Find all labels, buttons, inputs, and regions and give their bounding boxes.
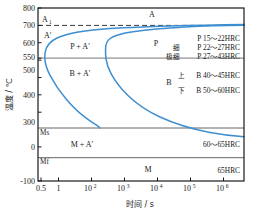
pearlite-hardness-row-3-prefix: 极细 xyxy=(166,52,180,61)
region-label-martensite: M xyxy=(144,165,151,174)
region-label-bainite: B xyxy=(166,78,171,87)
bainite-hardness-row-1-prefix: 上 xyxy=(178,71,185,80)
region-label-martensite-austenite: M + A′ xyxy=(71,140,94,149)
region-label-pearlite-austenite: P + A′ xyxy=(70,42,90,51)
y-tick-400: 400 xyxy=(23,91,35,100)
y-tick-700: 700 xyxy=(23,21,35,30)
mf-line-label: Mf xyxy=(40,158,49,166)
x-tick-1e5: 10 xyxy=(183,184,191,193)
x-tick-1e6: 10 xyxy=(216,184,224,193)
x-tick-1e4-exponent: 4 xyxy=(160,183,163,189)
x-tick-1e3-exponent: 3 xyxy=(127,183,130,189)
region-label-pearlite: P xyxy=(154,39,159,48)
y-axis-title: 温度 / ℃ xyxy=(4,79,14,112)
ms-line-label: Ms xyxy=(40,129,49,137)
pearlite-hardness-row-1: P 15～22HRC xyxy=(197,34,240,43)
a1-line-label: A xyxy=(42,15,48,24)
y-tick-800: 800 xyxy=(23,4,35,13)
x-tick-1e2: 10 xyxy=(84,184,92,193)
y-axis-tick-labels: 800 700 600 550 500 400 300 0 -100 xyxy=(20,4,35,186)
pearlite-hardness-row-2-prefix: 细 xyxy=(173,43,180,52)
y-tick-0: 0 xyxy=(31,143,35,152)
pearlite-hardness-row-3: P 27～43HRC xyxy=(197,52,240,61)
y-tick-300: 300 xyxy=(23,118,35,127)
region-label-bainite-austenite: B + A′ xyxy=(70,69,91,78)
y-tick-550: 550 xyxy=(23,53,35,62)
x-tick-1e3: 10 xyxy=(117,184,125,193)
region-label-austenite-prime: A′ xyxy=(44,31,52,40)
x-tick-0-5: 0.5 xyxy=(36,184,46,193)
x-tick-1: 1 xyxy=(57,184,61,193)
y-tick-600: 600 xyxy=(23,39,35,48)
bainite-hardness-row-2: B 50～60HRC xyxy=(196,86,240,95)
bainite-hardness-row-2-prefix: 下 xyxy=(178,87,185,95)
ttt-diagram-figure: 800 700 600 550 500 400 300 0 -100 温度 / … xyxy=(0,0,253,212)
x-axis-title: 时间 / s xyxy=(126,199,154,209)
x-tick-1e2-exponent: 2 xyxy=(94,183,97,189)
x-tick-1e6-exponent: 6 xyxy=(226,183,229,189)
chart-canvas: 800 700 600 550 500 400 300 0 -100 温度 / … xyxy=(0,0,253,212)
x-axis-tick-labels: 0.5 1 10 2 10 3 10 4 10 5 10 6 xyxy=(36,183,229,194)
y-tick-minus100: -100 xyxy=(20,177,35,186)
x-tick-1e4: 10 xyxy=(150,184,158,193)
a1-line-label-subscript: 1 xyxy=(49,19,52,25)
martensite-hardness-label: 65HRC xyxy=(217,166,240,175)
bainite-hardness-row-1: B 40～45HRC xyxy=(196,71,240,80)
martensite-austenite-hardness-label: 60～65HRC xyxy=(203,140,240,149)
y-tick-500: 500 xyxy=(23,66,35,75)
region-label-austenite: A xyxy=(149,10,155,19)
pearlite-hardness-row-2: P 22～27HRC xyxy=(197,43,240,52)
x-tick-1e5-exponent: 5 xyxy=(193,183,196,189)
